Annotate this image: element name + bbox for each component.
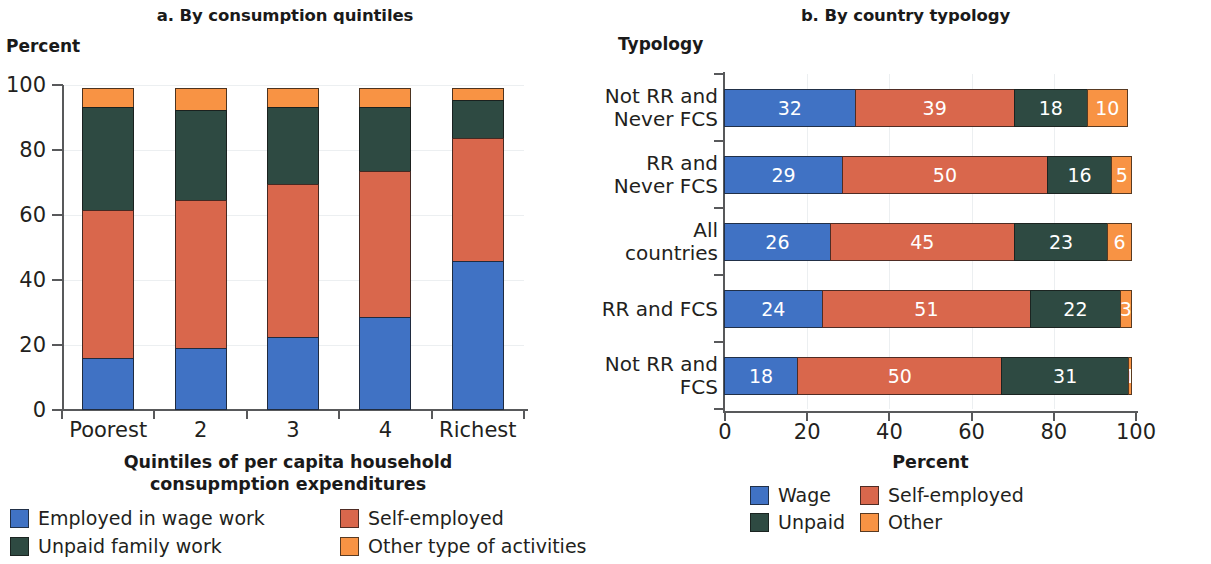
panel-b-bar-segment: 29 — [724, 156, 843, 194]
panel-b-y-axis-name: Typology — [618, 34, 703, 54]
panel-b-x-tick-label: 100 — [1116, 420, 1156, 444]
panel-b-bar: 2645236 — [725, 223, 1136, 261]
panel-a-y-tick-label: 0 — [0, 400, 46, 421]
panel-a-legend-item: Employed in wage work — [10, 509, 340, 528]
panel-b-y-tick — [714, 140, 724, 142]
panel-b-bar-segment: 22 — [1030, 290, 1120, 328]
panel-a-bar-segment — [82, 358, 134, 410]
panel-a-bar — [267, 85, 319, 410]
panel-b-bar-segment: 50 — [842, 156, 1048, 194]
panel-a-y-tick-label: 100 — [0, 75, 46, 96]
legend-swatch-self-employed — [340, 509, 359, 528]
panel-b-bar: 2950165 — [725, 156, 1136, 194]
panel-a-y-tick-label: 80 — [0, 140, 46, 161]
panel-a-y-axis-name: Percent — [6, 36, 80, 56]
panel-b-category-label-line: Never FCS — [600, 175, 718, 198]
panel-a-x-tick-label: 4 — [379, 418, 392, 442]
legend-swatch-wage — [750, 486, 769, 505]
panel-a-legend-item: Self-employed — [340, 509, 600, 528]
panel-b-y-tick — [714, 341, 724, 343]
panel-b-category-label-line: RR and — [600, 152, 718, 175]
panel-b-category-label-line: FCS — [600, 376, 718, 399]
panel-a-bar-segment — [267, 88, 319, 108]
panel-a-bar — [82, 85, 134, 410]
panel-a-bar-segment — [359, 88, 411, 108]
panel-a-y-tick — [52, 84, 63, 86]
panel-b-bar-segment: 51 — [822, 290, 1032, 328]
panel-a-x-tick-label: 2 — [194, 418, 207, 442]
panel-b-bar-segment: 23 — [1014, 223, 1109, 261]
legend-swatch-unpaid — [750, 513, 769, 532]
panel-a-bar-segment — [267, 184, 319, 338]
panel-a-bar-segment — [175, 110, 227, 201]
panel-b-legend-label: Unpaid — [778, 513, 845, 532]
panel-b-x-tick-label: 80 — [1040, 420, 1067, 444]
panel-b-x-tick-label: 40 — [876, 420, 903, 444]
panel-a-bar-segment — [359, 317, 411, 410]
panel-a-x-tick — [431, 409, 433, 419]
panel-b-category-label: RR andNever FCS — [600, 152, 718, 198]
panel-b-bar-segment: 18 — [1014, 89, 1088, 127]
panel-b-x-axis-line — [723, 411, 1138, 413]
panel-a-y-tick — [52, 214, 63, 216]
panel-a-x-tick — [153, 409, 155, 419]
panel-a-bar-segment — [175, 88, 227, 111]
panel-b-bar-segment: 39 — [855, 89, 1015, 127]
panel-a-bar-segment — [359, 107, 411, 172]
panel-a-x-tick — [246, 409, 248, 419]
panel-b-legend-label: Wage — [778, 486, 831, 505]
panel-a-bar-segment — [175, 348, 227, 410]
panel-b-y-tick — [714, 73, 724, 75]
legend-swatch-other — [860, 513, 879, 532]
panel-b-legend-item: Self-employed — [860, 486, 1080, 505]
panel-b-legend-label: Other — [888, 513, 942, 532]
panel-b-bar-segment: 16 — [1047, 156, 1113, 194]
panel-a-legend-label: Employed in wage work — [38, 509, 265, 528]
panel-b-category-label: Not RR andNever FCS — [600, 85, 718, 131]
panel-a-y-tick — [52, 344, 63, 346]
legend-swatch-self-employed — [860, 486, 879, 505]
panel-a-bar-segment — [175, 200, 227, 350]
panel-b-bar-segment: 10 — [1087, 89, 1128, 127]
panel-b-category-label: Not RR andFCS — [600, 353, 718, 399]
panel-b-bar-segment: 26 — [724, 223, 831, 261]
legend-swatch-unpaid — [10, 537, 29, 556]
panel-b-bar-segment: 50 — [797, 357, 1003, 395]
panel-a-x-tick — [61, 409, 63, 419]
panel-a-x-axis-title-line1: Quintiles of per capita household — [18, 452, 558, 474]
panel-b-bar-segment: 32 — [724, 89, 856, 127]
panel-b-y-tick — [714, 408, 724, 410]
panel-b-country-typology: b. By country typology Typology Not RR a… — [600, 0, 1211, 564]
panel-a-legend-label: Unpaid family work — [38, 537, 222, 556]
panel-a-title: a. By consumption quintiles — [20, 6, 550, 25]
panel-b-category-label-line: Not RR and — [600, 353, 718, 376]
panel-a-x-tick — [338, 409, 340, 419]
panel-b-x-tick-label: 20 — [794, 420, 821, 444]
panel-a-bar-segment — [82, 88, 134, 108]
panel-a-bar-segment — [82, 210, 134, 360]
panel-b-category-label: All countries — [600, 219, 718, 265]
panel-a-legend-label: Self-employed — [368, 509, 504, 528]
panel-a-bar — [452, 85, 504, 410]
panel-b-bar: 32391810 — [725, 89, 1136, 127]
panel-b-bar-segment: 18 — [724, 357, 798, 395]
panel-a-x-tick-label: Poorest — [69, 418, 147, 442]
panel-a-bar — [359, 85, 411, 410]
panel-a-consumption-quintiles: a. By consumption quintiles Percent 0204… — [0, 0, 600, 564]
panel-b-y-tick — [714, 274, 724, 276]
panel-b-x-axis-title: Percent — [723, 452, 1138, 472]
panel-a-y-tick-label: 40 — [0, 270, 46, 291]
panel-b-category-label-line: All countries — [600, 219, 718, 265]
panel-b-bar-segment: 3 — [1120, 290, 1132, 328]
panel-b-bar-segment: 24 — [724, 290, 823, 328]
panel-a-bar-segment — [359, 171, 411, 319]
panel-b-x-tick-label: 60 — [958, 420, 985, 444]
panel-b-category-label-line: Not RR and — [600, 85, 718, 108]
panel-a-y-tick — [52, 149, 63, 151]
panel-b-bar-segment: 45 — [830, 223, 1015, 261]
panel-a-x-tick-label: 3 — [286, 418, 299, 442]
panel-b-y-tick — [714, 207, 724, 209]
panel-b-bar-segment: 6 — [1107, 223, 1132, 261]
panel-a-x-tick — [523, 409, 525, 419]
panel-b-legend-label: Self-employed — [888, 486, 1024, 505]
